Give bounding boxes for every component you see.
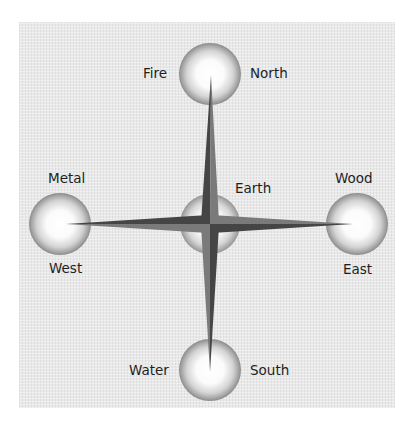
label-element-north: Fire (143, 67, 167, 81)
label-direction-east: East (343, 263, 372, 277)
compass-diagram (0, 0, 418, 426)
compass-star-icon (66, 75, 353, 372)
label-element-center: Earth (235, 182, 271, 196)
label-direction-west: West (49, 262, 82, 276)
label-element-east: Wood (335, 172, 373, 186)
label-element-south: Water (129, 364, 169, 378)
label-direction-north: North (250, 67, 288, 81)
label-direction-south: South (250, 364, 289, 378)
label-element-west: Metal (48, 172, 85, 186)
